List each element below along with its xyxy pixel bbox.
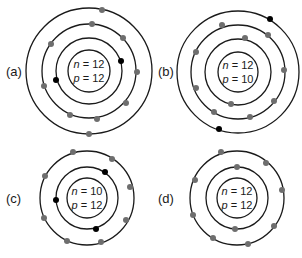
electron-gray — [265, 32, 271, 38]
electron-gray — [134, 69, 140, 75]
electron-black — [102, 169, 108, 175]
atom-c: (c) n = 10 p = 12 — [6, 149, 134, 245]
electron-gray — [127, 184, 133, 190]
electron-gray — [120, 35, 126, 41]
neutron-count: n = 10 — [72, 185, 103, 197]
electron-gray — [64, 238, 70, 244]
electron-gray — [281, 67, 287, 73]
electron-gray — [70, 149, 76, 155]
electron-black — [118, 58, 124, 64]
electron-gray — [193, 85, 199, 91]
proton-count: p = 10 — [222, 73, 254, 85]
nucleus — [217, 178, 257, 218]
electron-gray — [190, 212, 196, 218]
atom-label: (c) — [6, 191, 21, 206]
nucleus — [68, 50, 110, 92]
electron-gray — [99, 7, 105, 13]
neutron-count: n = 12 — [223, 59, 254, 71]
electron-gray — [232, 226, 238, 232]
electron-gray — [41, 83, 47, 89]
electron-gray — [86, 131, 92, 137]
atom-label: (b) — [158, 64, 174, 79]
nucleus — [67, 178, 107, 218]
electron-gray — [271, 223, 277, 229]
electron-gray — [219, 22, 225, 28]
nucleus — [218, 52, 258, 92]
electron-black — [267, 16, 273, 22]
electron-gray — [193, 49, 199, 55]
electron-gray — [94, 116, 100, 122]
electron-gray — [247, 114, 253, 120]
electron-gray — [234, 164, 240, 170]
electron-gray — [228, 101, 234, 107]
electron-gray — [89, 21, 95, 27]
electron-black — [93, 226, 99, 232]
atom-diagram: (a) n = 12 p = 12 (b) n = 12 p = 10 (c) … — [0, 0, 302, 258]
electron-gray — [109, 156, 115, 162]
electron-gray — [279, 187, 285, 193]
electron-gray — [242, 35, 248, 41]
electron-gray — [98, 239, 104, 245]
electron-gray — [42, 173, 48, 179]
electron-gray — [263, 160, 269, 166]
electron-gray — [192, 177, 198, 183]
neutron-count: n = 12 — [222, 185, 253, 197]
atom-d: (d) n = 12 p = 12 — [158, 149, 285, 247]
electron-gray — [210, 235, 216, 241]
electron-gray — [48, 41, 54, 47]
proton-count: p = 12 — [71, 199, 103, 211]
atom-label: (a) — [6, 64, 22, 79]
electron-black — [53, 197, 59, 203]
electron-gray — [123, 217, 129, 223]
electron-gray — [41, 215, 47, 221]
atom-b: (b) n = 12 p = 10 — [158, 11, 299, 133]
neutron-count: n = 12 — [74, 58, 105, 70]
atom-label: (d) — [158, 191, 174, 206]
electron-gray — [211, 109, 217, 115]
electron-gray — [218, 149, 224, 155]
electron-gray — [271, 98, 277, 104]
electron-gray — [245, 241, 251, 247]
atom-a: (a) n = 12 p = 12 — [6, 7, 152, 137]
electron-black — [216, 126, 222, 132]
proton-count: p = 12 — [73, 72, 105, 84]
electron-gray — [67, 112, 73, 118]
electron-black — [53, 77, 59, 83]
electron-gray — [123, 100, 129, 106]
proton-count: p = 12 — [221, 199, 253, 211]
